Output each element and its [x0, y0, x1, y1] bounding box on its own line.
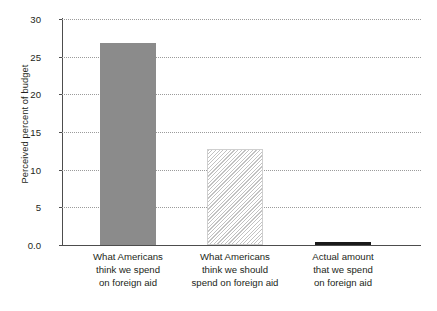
category-label-line: Actual amount — [283, 250, 403, 263]
y-axis-tick-label: 25 — [0, 51, 41, 62]
bars — [62, 19, 421, 245]
category-label-line: spend on foreign aid — [175, 276, 295, 289]
category-label-line: think we should — [175, 263, 295, 276]
category-label-line: think we spend — [68, 263, 188, 276]
category-label-line: What Americans — [175, 250, 295, 263]
bar-chart: Perceived percent of budget 0.0510152025… — [0, 0, 437, 311]
y-axis-tick-label: 20 — [0, 89, 41, 100]
y-axis-tick-label: 5 — [0, 202, 41, 213]
x-axis-line — [62, 245, 421, 246]
x-axis-category-label: What Americansthink we shouldspend on fo… — [175, 250, 295, 290]
y-axis-tick-mark — [59, 245, 63, 246]
category-label-line: on foreign aid — [68, 276, 188, 289]
y-axis-tick-label: 10 — [0, 164, 41, 175]
category-label-line: What Americans — [68, 250, 188, 263]
bar — [207, 149, 263, 245]
category-label-line: on foreign aid — [283, 276, 403, 289]
plot-area: 0.051015202530 — [62, 19, 421, 245]
category-label-line: that we spend — [283, 263, 403, 276]
x-axis-category-labels: What Americansthink we spendon foreign a… — [62, 250, 437, 308]
y-axis-tick-label: 30 — [0, 14, 41, 25]
y-axis-tick-label: 0.0 — [0, 240, 41, 251]
bar — [100, 43, 156, 245]
x-axis-category-label: What Americansthink we spendon foreign a… — [68, 250, 188, 290]
x-axis-category-label: Actual amountthat we spendon foreign aid — [283, 250, 403, 290]
bar — [315, 242, 371, 245]
y-axis-tick-label: 15 — [0, 127, 41, 138]
